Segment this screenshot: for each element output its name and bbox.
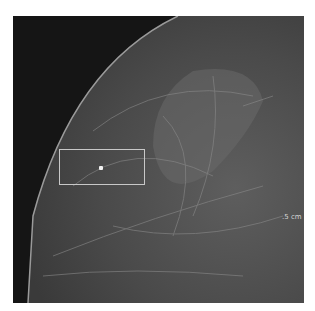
calcification-marker (99, 166, 103, 170)
mammogram-image: .5 cm (13, 16, 304, 303)
scale-label: .5 cm (282, 213, 302, 221)
breast-tissue-graphic (13, 16, 304, 303)
